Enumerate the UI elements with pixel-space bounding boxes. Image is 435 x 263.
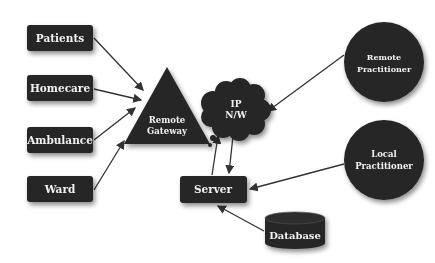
edge-ambulance-gateway <box>94 108 135 140</box>
database-label: Database <box>269 230 321 241</box>
gateway-label-line1: Remote <box>149 115 186 125</box>
node-ip-network-cloud: IP N/W <box>201 78 271 147</box>
local-practitioner-line1: Local <box>371 149 397 159</box>
node-server: Server <box>180 176 247 203</box>
edge-patients-gateway <box>94 38 143 90</box>
gateway-label-line2: Gateway <box>147 126 188 136</box>
ward-label: Ward <box>44 183 76 195</box>
node-local-practitioner: Local Practitioner <box>344 120 424 200</box>
ambulance-label: Ambulance <box>26 134 93 146</box>
server-label: Server <box>194 183 233 195</box>
network-label-line2: N/W <box>225 110 248 120</box>
node-remote-practitioner: Remote Practitioner <box>344 22 424 102</box>
edge-homecare-gateway <box>94 89 141 100</box>
node-ambulance: Ambulance <box>26 127 93 153</box>
node-remote-gateway: Remote Gateway <box>124 67 210 144</box>
network-label-line1: IP <box>231 99 242 109</box>
homecare-label: Homecare <box>30 82 90 94</box>
edge-server-network <box>212 136 218 175</box>
remote-practitioner-line1: Remote <box>367 52 401 62</box>
node-patients: Patients <box>27 25 93 51</box>
edge-remote-practitioner-network <box>268 55 344 111</box>
node-ward: Ward <box>27 176 93 202</box>
edge-network-server <box>229 136 233 173</box>
patients-label: Patients <box>36 32 84 44</box>
edge-ward-gateway <box>94 141 124 190</box>
local-practitioner-line2: Practitioner <box>355 161 413 171</box>
telemedicine-architecture-diagram: Patients Homecare Ambulance Ward Remote … <box>0 0 435 263</box>
edge-local-practitioner-server <box>250 164 344 189</box>
edge-database-server <box>218 206 264 231</box>
node-database: Database <box>265 212 325 249</box>
remote-practitioner-line2: Practitioner <box>357 64 412 74</box>
node-homecare: Homecare <box>27 75 93 101</box>
